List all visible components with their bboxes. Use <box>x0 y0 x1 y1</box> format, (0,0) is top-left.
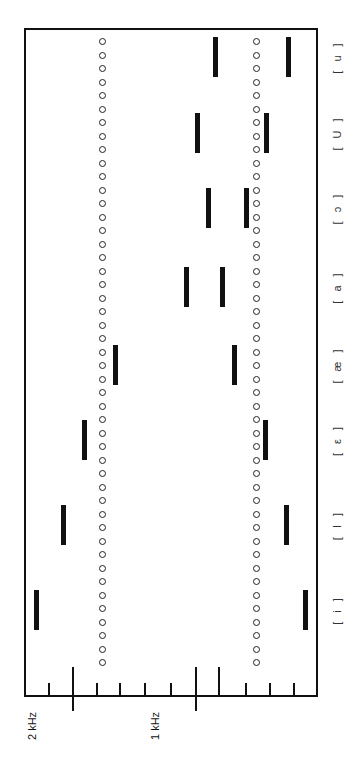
reference-circle <box>253 457 260 464</box>
axis-label-1khz: 1 kHz <box>149 712 161 740</box>
reference-circle <box>99 376 106 383</box>
reference-circle <box>99 187 106 194</box>
reference-circle <box>253 578 260 585</box>
reference-circle <box>253 92 260 99</box>
vowel-label-u: [ u ] <box>331 37 343 77</box>
reference-circle <box>99 592 106 599</box>
axis-tick <box>195 667 197 711</box>
formant-bar-f1 <box>284 505 289 545</box>
axis-tick <box>96 683 98 697</box>
reference-circle <box>253 160 260 167</box>
formant-bar-f2 <box>206 188 211 228</box>
reference-circle <box>253 497 260 504</box>
reference-circle <box>253 470 260 477</box>
formant-bar-f2 <box>34 590 39 630</box>
axis-tick <box>245 683 247 697</box>
reference-circle <box>253 322 260 329</box>
reference-circle <box>99 457 106 464</box>
reference-circle <box>253 335 260 342</box>
reference-circle <box>253 79 260 86</box>
formant-bar-f2 <box>113 345 118 385</box>
reference-circle <box>253 619 260 626</box>
axis-tick <box>293 683 295 697</box>
reference-circle <box>253 632 260 639</box>
reference-circle <box>99 322 106 329</box>
reference-circle <box>253 281 260 288</box>
reference-circle <box>253 173 260 180</box>
reference-circle <box>99 295 106 302</box>
reference-circle <box>253 187 260 194</box>
reference-circle <box>253 605 260 612</box>
reference-circle <box>99 133 106 140</box>
reference-circle <box>99 241 106 248</box>
reference-circle <box>253 362 260 369</box>
reference-circle <box>253 443 260 450</box>
reference-circle <box>99 565 106 572</box>
formant-bar-f2 <box>184 267 189 307</box>
reference-circle <box>253 659 260 666</box>
axis-tick <box>119 683 121 697</box>
vowel-label-ae: [ æ ] <box>331 345 343 385</box>
reference-circle <box>99 619 106 626</box>
reference-circle <box>99 349 106 356</box>
reference-circle <box>253 538 260 545</box>
reference-circle <box>253 646 260 653</box>
reference-circle <box>253 565 260 572</box>
reference-circle <box>253 52 260 59</box>
reference-circle <box>253 133 260 140</box>
reference-circle <box>99 538 106 545</box>
reference-circle <box>253 119 260 126</box>
axis-tick <box>72 667 74 711</box>
reference-circle <box>253 254 260 261</box>
formant-bar-f2 <box>213 37 218 77</box>
reference-circle <box>99 52 106 59</box>
reference-circle <box>253 241 260 248</box>
reference-circle <box>253 484 260 491</box>
formant-bar-f1 <box>264 113 269 153</box>
reference-circle <box>99 484 106 491</box>
reference-circle <box>99 511 106 518</box>
reference-circle <box>99 430 106 437</box>
formant-bar-f1 <box>244 188 249 228</box>
reference-circle <box>99 268 106 275</box>
reference-circle <box>253 65 260 72</box>
formant-bar-f1 <box>303 590 308 630</box>
reference-circle <box>253 511 260 518</box>
reference-circle <box>253 295 260 302</box>
reference-circle <box>253 430 260 437</box>
reference-circle <box>253 146 260 153</box>
reference-circle <box>99 160 106 167</box>
reference-circle <box>253 403 260 410</box>
reference-circle <box>99 79 106 86</box>
axis-tick <box>170 683 172 697</box>
vowel-label-epsilon: [ ε ] <box>331 420 343 460</box>
reference-circle <box>253 214 260 221</box>
formant-bar-f1 <box>232 345 237 385</box>
formant-chart: 2 kHz 1 kHz [ i ] [ I ] [ ε ] [ æ ] [ a … <box>0 0 355 758</box>
axis-label-2khz: 2 kHz <box>26 712 38 740</box>
reference-circle <box>253 524 260 531</box>
reference-circle <box>99 106 106 113</box>
formant-bar-f1 <box>286 37 291 77</box>
reference-circle <box>253 551 260 558</box>
formant-bar-f2 <box>61 505 66 545</box>
axis-tick <box>48 683 50 697</box>
reference-circle <box>253 349 260 356</box>
reference-circle <box>253 376 260 383</box>
reference-circle <box>99 214 106 221</box>
reference-circle <box>99 403 106 410</box>
reference-circle <box>99 646 106 653</box>
axis-tick <box>144 683 146 697</box>
axis-tick <box>269 683 271 697</box>
vowel-label-i: [ i ] <box>331 590 343 630</box>
reference-circle <box>253 227 260 234</box>
vowel-label-I: [ I ] <box>331 505 343 545</box>
vowel-label-open-o: [ ɔ ] <box>331 188 343 228</box>
axis-tick <box>218 667 220 697</box>
reference-circle <box>253 416 260 423</box>
reference-circle <box>253 389 260 396</box>
reference-circle <box>253 38 260 45</box>
reference-circle <box>253 268 260 275</box>
reference-circle <box>253 308 260 315</box>
reference-circle <box>253 592 260 599</box>
